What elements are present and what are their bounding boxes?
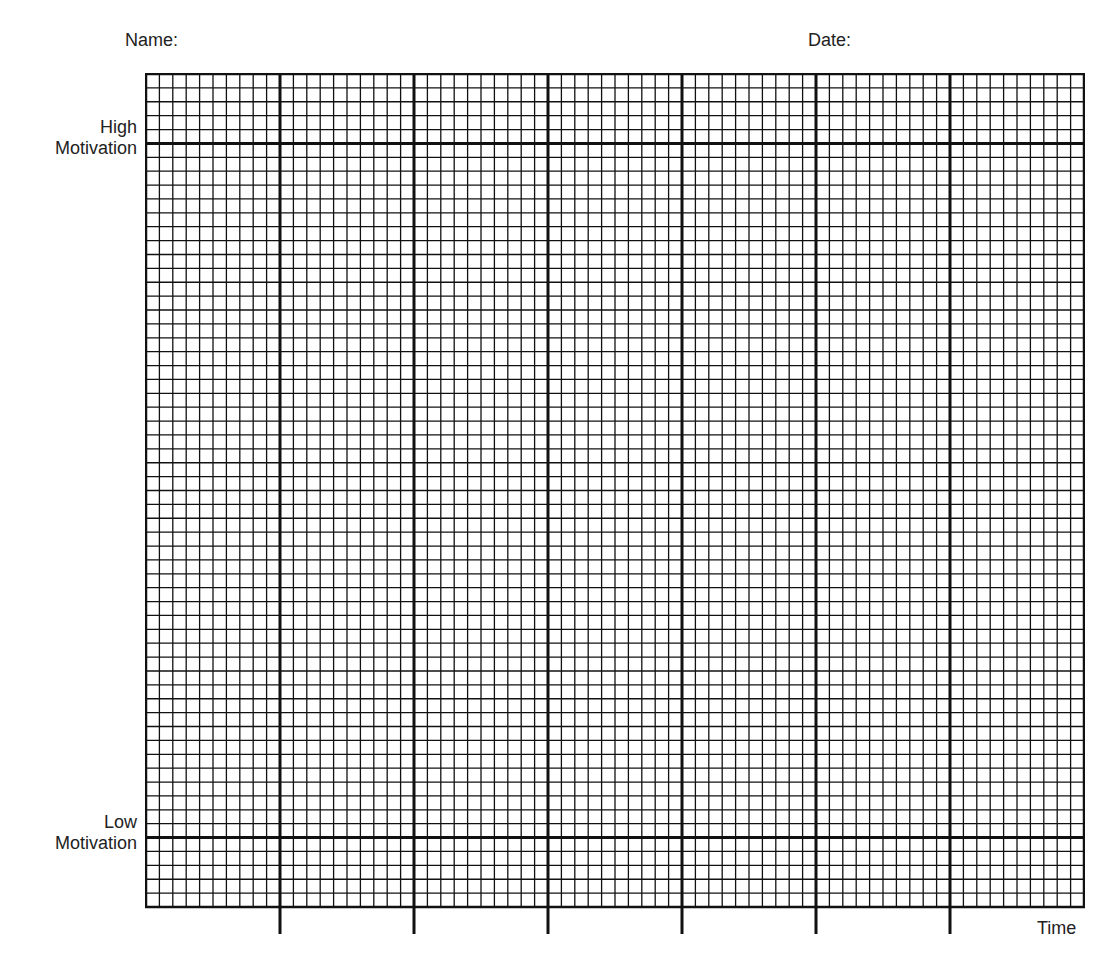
graph-paper [145, 73, 1085, 935]
motivation-graph-grid [145, 73, 1083, 906]
name-field-label: Name: [125, 30, 178, 51]
y-axis-low-label: Low Motivation [55, 812, 137, 854]
y-axis-high-label: High Motivation [55, 117, 137, 159]
date-field-label: Date: [808, 30, 851, 51]
high-label-line2: Motivation [55, 138, 137, 159]
high-label-line1: High [55, 117, 137, 138]
low-label-line2: Motivation [55, 833, 137, 854]
low-label-line1: Low [55, 812, 137, 833]
